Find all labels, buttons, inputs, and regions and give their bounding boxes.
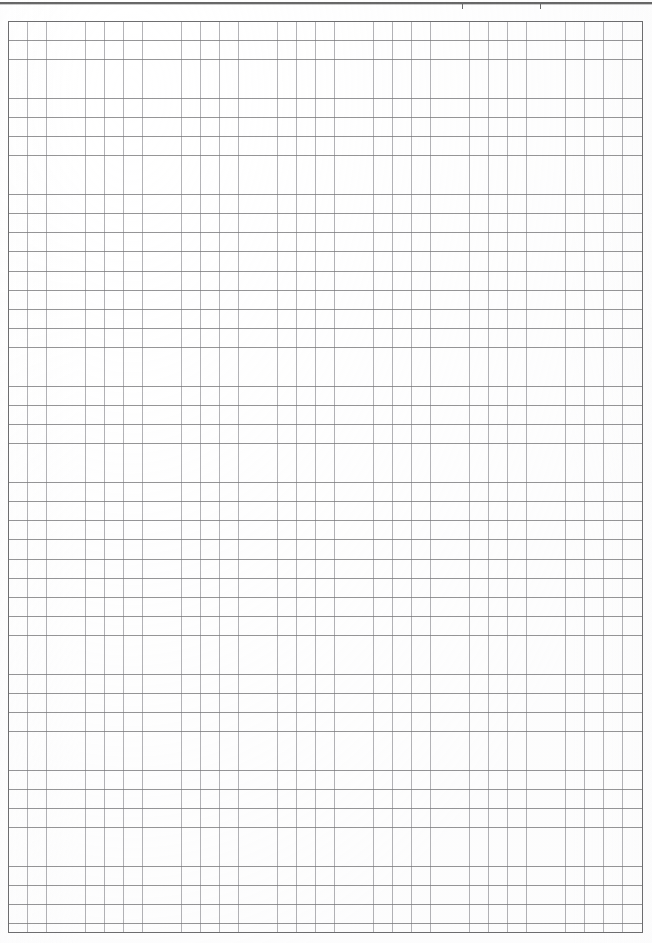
page-content-text <box>0 0 1 1</box>
rule-tick-mark-1 <box>462 2 463 9</box>
top-horizontal-rule-shadow <box>0 4 652 5</box>
scan-blur-overlay <box>8 21 643 933</box>
page-canvas <box>0 0 652 943</box>
rule-tick-mark-2 <box>540 2 541 9</box>
quadrille-grid <box>8 21 643 933</box>
